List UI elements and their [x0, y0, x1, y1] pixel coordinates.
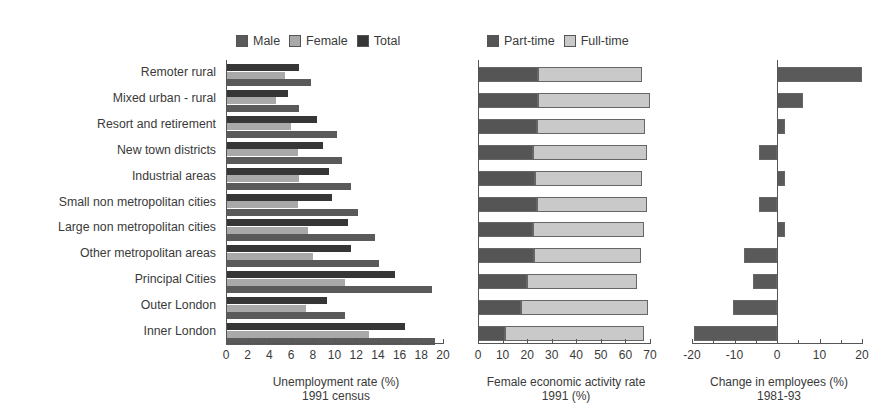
x-tick	[313, 339, 314, 344]
bar-full-time	[537, 119, 645, 134]
legend-label: Male	[253, 34, 280, 48]
bar-change-employees	[753, 274, 777, 289]
x-tick-label: -20	[683, 348, 700, 362]
legend-label: Female	[306, 34, 348, 48]
legend-swatch	[564, 35, 576, 47]
x-tick-label: 10	[496, 348, 509, 362]
bar-full-time	[538, 67, 642, 82]
bar-change-employees	[777, 222, 785, 237]
category-label: Mixed urban - rural	[113, 91, 216, 105]
bar-female	[226, 331, 369, 338]
x-tick-label: 0	[774, 348, 781, 362]
bar-male	[226, 157, 342, 164]
x-tick	[291, 339, 292, 344]
x-tick	[527, 339, 528, 344]
category-label: Large non metropolitan cities	[58, 220, 216, 234]
bar-change-employees	[777, 67, 862, 82]
legend-label: Part-time	[504, 34, 555, 48]
bar-full-time	[521, 300, 648, 315]
zero-line	[777, 60, 778, 343]
x-tick-label: 40	[570, 348, 583, 362]
bar-full-time	[537, 197, 647, 212]
bar-total	[226, 168, 329, 175]
bar-part-time	[478, 300, 521, 315]
bar-total	[226, 271, 395, 278]
bar-part-time	[478, 248, 534, 263]
x-tick-label: 16	[393, 348, 406, 362]
x-tick-label: 0	[223, 348, 230, 362]
category-label: Small non metropolitan cities	[59, 195, 216, 209]
bar-part-time	[478, 171, 535, 186]
x-tick	[269, 339, 270, 344]
x-tick-label: 70	[643, 348, 656, 362]
x-tick	[820, 339, 821, 344]
bar-change-employees	[733, 300, 777, 315]
legend-swatch	[289, 35, 301, 47]
x-tick	[378, 339, 379, 344]
bar-total	[226, 194, 332, 201]
legend-female-activity: Part-timeFull-time	[487, 34, 629, 48]
x-tick	[356, 339, 357, 344]
bar-part-time	[478, 222, 533, 237]
x-tick-label: 8	[309, 348, 316, 362]
bar-male	[226, 286, 432, 293]
x-tick-label: 12	[350, 348, 363, 362]
x-tick	[625, 339, 626, 344]
bar-full-time	[533, 145, 647, 160]
bar-female	[226, 201, 298, 208]
bar-male	[226, 312, 345, 319]
bar-change-employees	[759, 145, 777, 160]
legend-unemployment: MaleFemaleTotal	[236, 34, 400, 48]
x-tick-label: 60	[619, 348, 632, 362]
legend-swatch	[236, 35, 248, 47]
bar-female	[226, 72, 285, 79]
category-label: Principal Cities	[135, 272, 216, 286]
bar-part-time	[478, 274, 527, 289]
x-axis-title: Change in employees (%)	[710, 375, 848, 389]
x-tick-label: 4	[266, 348, 273, 362]
legend-swatch	[487, 35, 499, 47]
bar-change-employees	[694, 326, 777, 341]
category-label: Other metropolitan areas	[80, 246, 216, 260]
x-axis-title: 1991 census	[302, 389, 370, 403]
bar-full-time	[533, 222, 644, 237]
bar-change-employees	[777, 93, 803, 108]
category-label: Outer London	[141, 298, 216, 312]
x-tick	[478, 339, 479, 344]
legend-label: Full-time	[581, 34, 629, 48]
x-axis-line	[693, 343, 863, 344]
bar-male	[226, 209, 358, 216]
category-label: New town districts	[117, 143, 216, 157]
category-label: Remoter rural	[141, 65, 216, 79]
bar-male	[226, 234, 375, 241]
bar-part-time	[478, 93, 538, 108]
x-tick-label: 30	[545, 348, 558, 362]
bar-full-time	[527, 274, 637, 289]
category-label: Resort and retirement	[97, 117, 216, 131]
bar-total	[226, 323, 405, 330]
x-tick-label: 0	[475, 348, 482, 362]
x-tick	[503, 339, 504, 344]
bar-full-time	[535, 171, 642, 186]
bar-change-employees	[744, 248, 777, 263]
bar-female	[226, 279, 345, 286]
x-axis-title: 1991 (%)	[542, 389, 591, 403]
x-tick	[862, 339, 863, 344]
bar-male	[226, 105, 299, 112]
x-axis-title: 1981-93	[757, 389, 801, 403]
x-axis-title: Female economic activity rate	[487, 375, 646, 389]
x-tick	[552, 339, 553, 344]
x-tick-label: 18	[415, 348, 428, 362]
x-tick-label: 10	[813, 348, 826, 362]
x-tick	[601, 339, 602, 344]
bar-male	[226, 183, 351, 190]
bar-total	[226, 245, 351, 252]
bar-part-time	[478, 119, 537, 134]
x-axis-title: Unemployment rate (%)	[273, 375, 400, 389]
bar-female	[226, 227, 308, 234]
x-tick-label: 20	[436, 348, 449, 362]
x-tick	[576, 339, 577, 344]
x-tick	[443, 339, 444, 344]
x-tick	[400, 339, 401, 344]
bar-female	[226, 175, 299, 182]
